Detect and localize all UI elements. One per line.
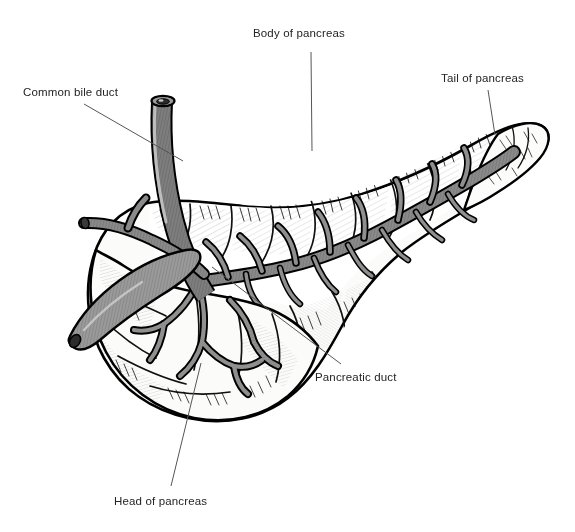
body-of-pancreas-leader <box>311 52 312 151</box>
label-body-of-pancreas: Body of pancreas <box>253 26 345 40</box>
label-tail-of-pancreas: Tail of pancreas <box>441 71 524 85</box>
pancreas-figure: Body of pancreas Tail of pancreas Common… <box>0 0 575 532</box>
tail-of-pancreas-leader <box>488 90 495 135</box>
label-head-of-pancreas: Head of pancreas <box>114 494 207 508</box>
label-common-bile-duct: Common bile duct <box>23 85 118 99</box>
label-pancreatic-duct: Pancreatic duct <box>315 370 397 384</box>
